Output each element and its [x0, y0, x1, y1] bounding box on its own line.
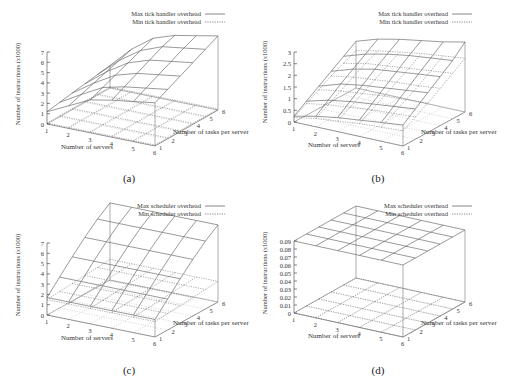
legend-label: Max scheduler overhead — [384, 202, 449, 209]
y-tick-label: 5 — [457, 307, 460, 314]
y-axis-label: Number of tasks per server — [173, 319, 249, 327]
z-tick-label: 0.02 — [280, 294, 291, 301]
z-tick-label: 3 — [288, 49, 291, 56]
chart-b: 00.511.522.53123456123456Number of serve… — [247, 0, 505, 192]
chart-c: 01234567123456123456Number of serversNum… — [0, 192, 258, 384]
y-tick-label: 2 — [419, 137, 422, 144]
y-tick-label: 5 — [457, 117, 460, 124]
x-tick-label: 1 — [292, 125, 295, 132]
z-tick-label: 0.01 — [280, 302, 291, 309]
z-tick-label: 6 — [41, 250, 45, 257]
x-tick-label: 6 — [401, 149, 405, 156]
x-tick-label: 6 — [153, 340, 157, 347]
z-tick-label: 1 — [41, 301, 44, 308]
legend-label: Min tick handler overhead — [132, 18, 202, 25]
x-tick-label: 5 — [379, 144, 382, 151]
y-tick-label: 6 — [469, 110, 473, 117]
x-tick-label: 3 — [88, 136, 91, 143]
z-axis-label: Number of instructions (x1000) — [261, 232, 269, 315]
z-tick-label: 0.07 — [280, 254, 292, 261]
z-axis-label: Number of instructions (x1000) — [14, 43, 22, 126]
caption-b: (b) — [348, 172, 408, 184]
legend-label: Min scheduler overhead — [138, 210, 202, 217]
z-tick-label: 0.5 — [283, 107, 291, 114]
y-tick-label: 6 — [222, 108, 226, 115]
x-tick-label: 1 — [292, 316, 295, 323]
legend-label: Max tick handler overhead — [131, 10, 202, 17]
caption-d: (d) — [348, 364, 408, 376]
z-tick-label: 0 — [288, 119, 291, 126]
z-tick-label: 0.04 — [280, 278, 292, 285]
z-tick-label: 4 — [41, 270, 45, 277]
caption-a: (a) — [99, 172, 159, 184]
x-tick-label: 2 — [67, 131, 70, 138]
z-tick-label: 2 — [288, 72, 291, 79]
z-tick-label: 3 — [41, 90, 44, 97]
z-tick-label: 0 — [41, 312, 44, 319]
z-axis-label: Number of instructions (x1000) — [14, 234, 22, 317]
y-tick-label: 5 — [209, 115, 212, 122]
y-axis-label: Number of tasks per server — [173, 128, 249, 136]
z-tick-label: 0.08 — [280, 246, 291, 253]
z-tick-label: 0.05 — [280, 270, 291, 277]
z-tick-label: 7 — [41, 240, 45, 247]
y-tick-label: 1 — [407, 335, 410, 342]
x-tick-label: 1 — [45, 318, 48, 325]
z-tick-label: 4 — [41, 79, 45, 86]
z-tick-label: 5 — [41, 260, 44, 267]
x-axis-label: Number of servers — [61, 334, 113, 342]
y-tick-label: 2 — [172, 328, 175, 335]
x-axis-label: Number of servers — [61, 143, 113, 151]
caption-c: (c) — [99, 364, 159, 376]
legend-label: Min scheduler overhead — [385, 210, 449, 217]
x-tick-label: 1 — [45, 127, 48, 134]
y-tick-label: 1 — [159, 144, 162, 151]
panel-b: 00.511.522.53123456123456Number of serve… — [247, 0, 505, 192]
y-tick-label: 6 — [222, 300, 226, 307]
x-tick-label: 5 — [379, 335, 382, 342]
x-tick-label: 2 — [67, 322, 70, 329]
x-tick-label: 5 — [131, 145, 134, 152]
panel-a: 01234567123456123456Number of serversNum… — [0, 0, 258, 192]
legend-label: Min tick handler overhead — [379, 18, 449, 25]
x-axis-label: Number of servers — [308, 141, 360, 149]
x-tick-label: 2 — [314, 130, 317, 137]
y-tick-label: 1 — [407, 144, 410, 151]
x-tick-label: 3 — [88, 327, 91, 334]
z-tick-label: 6 — [41, 59, 45, 66]
y-axis-label: Number of tasks per server — [421, 128, 497, 136]
legend-label: Max tick handler overhead — [378, 10, 449, 17]
z-tick-label: 1.5 — [283, 84, 291, 91]
z-axis-label: Number of instructions (x1000) — [261, 41, 269, 124]
z-tick-label: 0 — [41, 121, 44, 128]
z-tick-label: 2 — [41, 291, 44, 298]
z-tick-label: 1 — [41, 110, 44, 117]
panel-c: 01234567123456123456Number of serversNum… — [0, 192, 258, 384]
y-tick-label: 5 — [209, 307, 212, 314]
x-tick-label: 5 — [131, 336, 134, 343]
z-tick-label: 2.5 — [283, 60, 291, 67]
z-tick-label: 0.06 — [280, 262, 292, 269]
y-tick-label: 2 — [172, 137, 175, 144]
y-tick-label: 1 — [159, 335, 162, 342]
z-tick-label: 7 — [41, 49, 45, 56]
panel-d: 00.010.020.030.040.050.060.070.080.09123… — [247, 192, 505, 384]
x-axis-label: Number of servers — [308, 332, 360, 340]
x-tick-label: 6 — [153, 149, 157, 156]
z-tick-label: 2 — [41, 100, 44, 107]
x-tick-label: 6 — [401, 340, 405, 347]
chart-d: 00.010.020.030.040.050.060.070.080.09123… — [247, 192, 505, 384]
y-tick-label: 6 — [469, 300, 473, 307]
chart-a: 01234567123456123456Number of serversNum… — [0, 0, 258, 192]
z-tick-label: 5 — [41, 69, 44, 76]
z-tick-label: 0 — [288, 310, 291, 317]
z-tick-label: 0.03 — [280, 286, 291, 293]
z-tick-label: 1 — [288, 95, 291, 102]
z-tick-label: 0.09 — [280, 238, 291, 245]
y-tick-label: 2 — [419, 328, 422, 335]
legend-label: Max scheduler overhead — [137, 202, 202, 209]
x-tick-label: 2 — [314, 321, 317, 328]
z-tick-label: 3 — [41, 281, 44, 288]
